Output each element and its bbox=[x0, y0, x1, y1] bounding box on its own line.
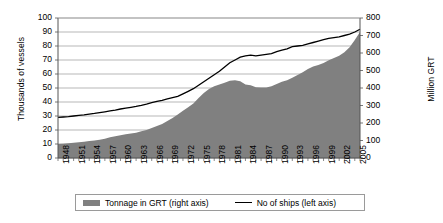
y-axis-right-title: Million GRT bbox=[426, 14, 436, 144]
y-axis-left-tick-30: 30 bbox=[22, 111, 52, 120]
x-axis-tick-1969: 1969 bbox=[171, 130, 180, 164]
x-axis-tick-1960: 1960 bbox=[124, 130, 133, 164]
y-axis-left-tick-60: 60 bbox=[22, 69, 52, 78]
y-axis-left-tick-50: 50 bbox=[22, 83, 52, 92]
x-axis-tick-1978: 1978 bbox=[218, 130, 227, 164]
legend-item-tonnage: Tonnage in GRT (right axis) bbox=[83, 198, 209, 208]
y-axis-left-tick-40: 40 bbox=[22, 97, 52, 106]
y-axis-left-tick-10: 10 bbox=[22, 139, 52, 148]
x-axis-tick-1984: 1984 bbox=[249, 130, 258, 164]
area-swatch-icon bbox=[83, 200, 100, 206]
x-axis-tick-1990: 1990 bbox=[281, 130, 290, 164]
chart-container: Thousands of vessels Million GRT 0102030… bbox=[0, 0, 443, 223]
x-axis-tick-1966: 1966 bbox=[156, 130, 165, 164]
x-axis-tick-1954: 1954 bbox=[93, 130, 102, 164]
y-axis-right-tick-800: 800 bbox=[366, 13, 396, 22]
x-axis-tick-2002: 2002 bbox=[343, 130, 352, 164]
y-axis-right-tick-300: 300 bbox=[366, 101, 396, 110]
x-axis-tick-1975: 1975 bbox=[203, 130, 212, 164]
x-axis-tick-1957: 1957 bbox=[109, 130, 118, 164]
chart-legend: Tonnage in GRT (right axis) No of ships … bbox=[75, 194, 365, 211]
y-axis-right-tick-400: 400 bbox=[366, 83, 396, 92]
line-swatch-icon bbox=[235, 202, 252, 203]
x-axis-tick-1981: 1981 bbox=[234, 130, 243, 164]
y-axis-left-tick-90: 90 bbox=[22, 27, 52, 36]
x-axis-tick-1999: 1999 bbox=[328, 130, 337, 164]
y-axis-right-tick-100: 100 bbox=[366, 136, 396, 145]
y-axis-right-tick-700: 700 bbox=[366, 31, 396, 40]
legend-item-ships: No of ships (left axis) bbox=[235, 198, 336, 208]
legend-label-ships: No of ships (left axis) bbox=[257, 198, 336, 208]
y-axis-right-tick-0: 0 bbox=[366, 153, 396, 162]
x-axis-tick-1963: 1963 bbox=[140, 130, 149, 164]
y-axis-right-tick-200: 200 bbox=[366, 118, 396, 127]
legend-label-tonnage: Tonnage in GRT (right axis) bbox=[105, 198, 209, 208]
x-axis-tick-1948: 1948 bbox=[62, 130, 71, 164]
x-axis-tick-1996: 1996 bbox=[312, 130, 321, 164]
x-axis-tick-1972: 1972 bbox=[187, 130, 196, 164]
x-axis-tick-1993: 1993 bbox=[296, 130, 305, 164]
x-axis-tick-1951: 1951 bbox=[78, 130, 87, 164]
x-axis-tick-1987: 1987 bbox=[265, 130, 274, 164]
y-axis-left-tick-20: 20 bbox=[22, 125, 52, 134]
y-axis-right-tick-500: 500 bbox=[366, 66, 396, 75]
y-axis-left-tick-100: 100 bbox=[22, 13, 52, 22]
x-axis-tick-2005: 2005 bbox=[359, 130, 368, 164]
y-axis-right-tick-600: 600 bbox=[366, 48, 396, 57]
y-axis-left-tick-0: 0 bbox=[22, 153, 52, 162]
y-axis-left-tick-70: 70 bbox=[22, 55, 52, 64]
y-axis-left-tick-80: 80 bbox=[22, 41, 52, 50]
